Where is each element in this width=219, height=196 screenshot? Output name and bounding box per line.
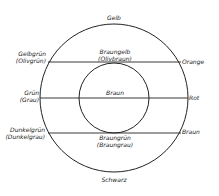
- label-orange: Orange: [182, 58, 204, 65]
- label-gruen: Grün (Grau): [20, 89, 39, 103]
- color-circle-diagram: Gelb Gelbgrün (Olivgrün) Grün (Grau) Dun…: [0, 0, 219, 196]
- label-gelbgruen-line2: (Olivgrün): [16, 57, 46, 64]
- label-gelbgruen: Gelbgrün (Olivgrün): [16, 50, 46, 64]
- label-gruen-line1: Grün: [20, 89, 39, 96]
- label-braun-right: Braun: [182, 128, 200, 135]
- label-braungelb-line1: Braungelb: [98, 48, 132, 55]
- label-braungruen-line1: Braungrün: [97, 134, 133, 141]
- label-dunkelgruen-line2: (Dunkelgrau): [6, 133, 46, 140]
- label-braungelb-line2: (Olivbraun): [98, 55, 132, 62]
- label-dunkelgruen: Dunkelgrün (Dunkelgrau): [6, 126, 46, 140]
- label-braungruen-line2: (Braungrau): [97, 141, 133, 148]
- label-gelb: Gelb: [107, 14, 121, 21]
- label-schwarz: Schwarz: [101, 176, 126, 183]
- label-rot: Rot: [189, 94, 199, 101]
- label-braun-center: Braun: [106, 89, 124, 96]
- label-braungelb: Braungelb (Olivbraun): [98, 48, 132, 62]
- label-braungruen: Braungrün (Braungrau): [97, 134, 133, 148]
- label-gelbgruen-line1: Gelbgrün: [16, 50, 46, 57]
- label-gruen-line2: (Grau): [20, 96, 39, 103]
- label-dunkelgruen-line1: Dunkelgrün: [6, 126, 46, 133]
